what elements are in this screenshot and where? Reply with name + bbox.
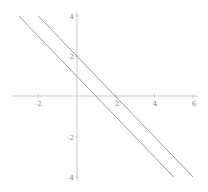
y-tick-label: -2: [67, 134, 74, 142]
x-tick-label: -2: [35, 100, 42, 108]
y-tick-label: 4: [70, 13, 75, 21]
y-tick-label: -4: [67, 174, 74, 182]
x-tick-label: 6: [192, 100, 197, 108]
y-tick-label: 2: [70, 53, 74, 61]
x-tick-label: 2: [115, 100, 119, 108]
x-tick-label: 4: [153, 100, 158, 108]
plot-area: -2 2 4 6 4 2 -2 -4: [0, 0, 208, 192]
